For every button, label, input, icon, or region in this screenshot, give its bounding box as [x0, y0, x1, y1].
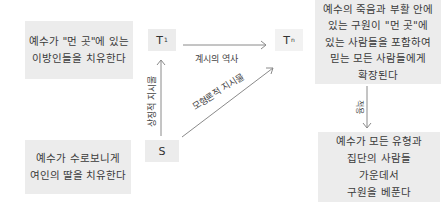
label-history-of-revelation: 계시의 역사 [195, 52, 238, 65]
label-application: 적용 [355, 100, 366, 114]
arrows-layer [0, 0, 444, 216]
label-symbolic-referent: 상징적 지시물 [145, 76, 158, 127]
